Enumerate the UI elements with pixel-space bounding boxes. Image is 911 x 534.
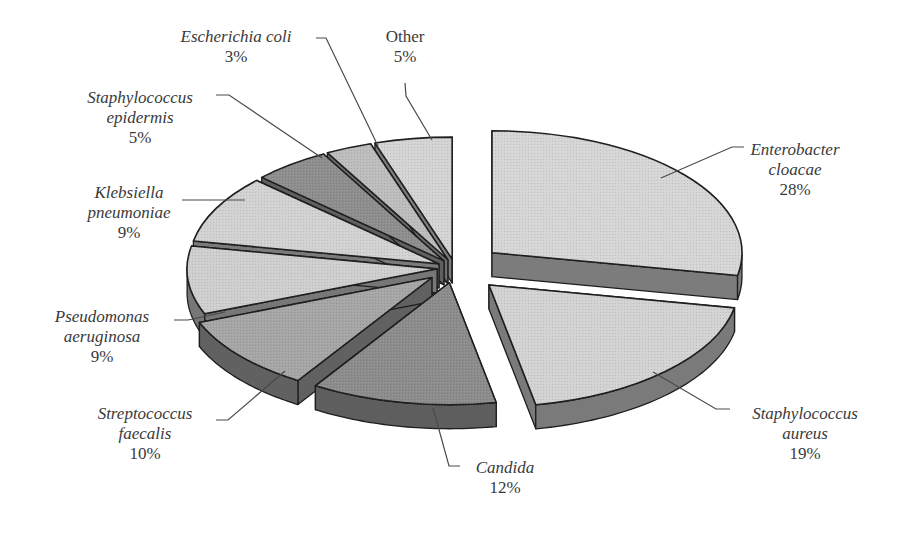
slice-name: Enterobacter <box>750 140 839 160</box>
slice-name: Escherichia coli <box>181 27 292 47</box>
slice-percent: 9% <box>87 223 170 243</box>
slice-percent: 19% <box>752 444 858 464</box>
slice-percent: 12% <box>476 478 535 498</box>
slice-name-line2: aeruginosa <box>55 327 149 347</box>
slice-name: Candida <box>476 458 535 478</box>
leader-line-escherichia-coli <box>316 38 378 146</box>
slice-name-line2: pneumoniae <box>87 203 170 223</box>
slice-name: Staphylococcus <box>752 404 858 424</box>
label-staphylococcus-aureus: Staphylococcusaureus19% <box>752 404 858 464</box>
label-escherichia-coli: Escherichia coli3% <box>181 27 292 67</box>
slice-percent: 9% <box>55 347 149 367</box>
leader-line-staphylococcus-epidermis <box>216 95 322 158</box>
slice-name-line2: aureus <box>752 424 858 444</box>
slice-percent: 5% <box>87 128 193 148</box>
label-klebsiella-pneumoniae: Klebsiellapneumoniae9% <box>87 183 170 243</box>
slice-name: Klebsiella <box>87 183 170 203</box>
slice-name: Other <box>386 27 425 47</box>
label-pseudomonas-aeruginosa: Pseudomonasaeruginosa9% <box>55 307 149 367</box>
slice-name: Pseudomonas <box>55 307 149 327</box>
slice-staphylococcus-aureus <box>489 285 735 429</box>
slice-percent: 28% <box>750 180 839 200</box>
label-enterobacter-cloacae: Enterobactercloacae28% <box>750 140 839 200</box>
slice-name-line2: cloacae <box>750 160 839 180</box>
slice-name-line2: faecalis <box>98 424 193 444</box>
leader-line-other <box>405 83 432 140</box>
slice-name-line2: epidermis <box>87 108 193 128</box>
slice-name: Staphylococcus <box>87 88 193 108</box>
slice-enterobacter-cloacae <box>492 131 742 300</box>
slice-name: Streptococcus <box>98 404 193 424</box>
label-staphylococcus-epidermis: Staphylococcusepidermis5% <box>87 88 193 148</box>
label-streptococcus-faecalis: Streptococcusfaecalis10% <box>98 404 193 464</box>
slice-percent: 3% <box>181 47 292 67</box>
label-other: Other5% <box>386 27 425 67</box>
slice-percent: 10% <box>98 444 193 464</box>
slice-percent: 5% <box>386 47 425 67</box>
label-candida: Candida12% <box>476 458 535 498</box>
